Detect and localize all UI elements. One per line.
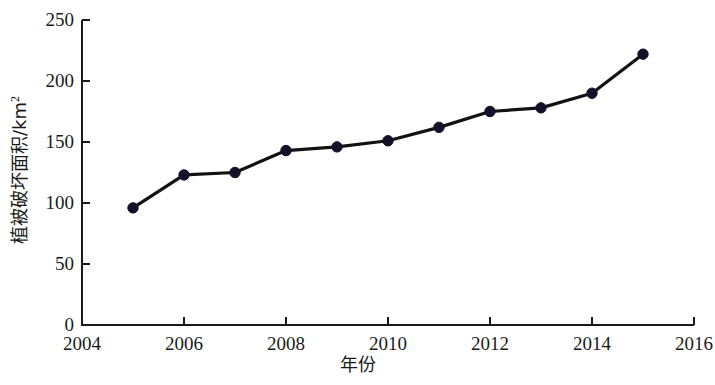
y-axis-tick-label: 200 bbox=[46, 71, 75, 90]
x-axis-tick-label: 2014 bbox=[552, 334, 632, 353]
line-chart: 050100150200250 200420062008201020122014… bbox=[0, 0, 715, 385]
x-axis-title: 年份 bbox=[0, 356, 715, 374]
data-point-markers bbox=[128, 49, 648, 213]
data-point bbox=[485, 106, 495, 116]
x-axis-tick-label: 2008 bbox=[246, 334, 326, 353]
data-point bbox=[383, 136, 393, 146]
data-point bbox=[230, 167, 240, 177]
data-point bbox=[638, 49, 648, 59]
data-point bbox=[179, 170, 189, 180]
data-point bbox=[332, 142, 342, 152]
x-axis-tick-label: 2016 bbox=[654, 334, 715, 353]
y-axis-title-text: 植被破坏面积/km bbox=[9, 102, 30, 244]
y-axis-tick-label: 150 bbox=[46, 132, 75, 151]
chart-axes bbox=[82, 20, 694, 325]
y-axis-title-superscript: 2 bbox=[8, 96, 22, 102]
y-axis-tick-label: 0 bbox=[65, 315, 75, 334]
x-axis-tick-label: 2012 bbox=[450, 334, 530, 353]
data-point bbox=[536, 103, 546, 113]
axis-ticks bbox=[82, 20, 694, 325]
data-series-line bbox=[133, 54, 643, 208]
data-point bbox=[434, 122, 444, 132]
x-axis-tick-label: 2010 bbox=[348, 334, 428, 353]
y-axis-tick-label: 250 bbox=[46, 10, 75, 29]
plot-area bbox=[0, 0, 715, 385]
y-axis-title: 植被破坏面积/km2 bbox=[2, 0, 34, 340]
y-axis-tick-label: 50 bbox=[55, 254, 74, 273]
data-point bbox=[587, 88, 597, 98]
data-point bbox=[128, 203, 138, 213]
x-axis-tick-label: 2006 bbox=[144, 334, 224, 353]
data-point bbox=[281, 145, 291, 155]
x-axis-tick-label: 2004 bbox=[42, 334, 122, 353]
y-axis-tick-label: 100 bbox=[46, 193, 75, 212]
